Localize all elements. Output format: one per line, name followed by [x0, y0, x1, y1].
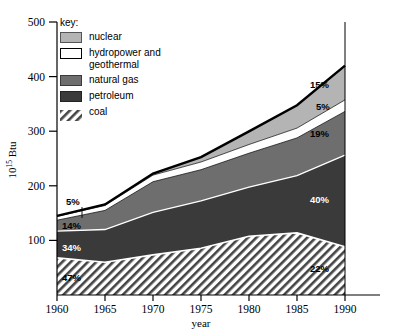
y-tick-label-200: 200 — [28, 180, 46, 192]
x-tick-label-1975: 1975 — [190, 303, 213, 315]
chart-legend: key: nuclear hydropower and geothermal n… — [60, 17, 198, 122]
pct-right-petroleum: 40% — [310, 194, 330, 205]
legend-label-natural-gas: natural gas — [89, 74, 138, 86]
legend-label-nuclear: nuclear — [89, 31, 122, 43]
svg-text:1015 Btu: 1015 Btu — [5, 141, 19, 179]
pct-left-petroleum: 34% — [62, 242, 82, 253]
pct-left-coal: 47% — [62, 272, 82, 283]
x-tick-label-1985: 1985 — [286, 303, 309, 315]
y-tick-label-400: 400 — [28, 71, 46, 83]
x-tick-label-1980: 1980 — [238, 303, 261, 315]
legend-label-coal: coal — [89, 106, 107, 118]
y-tick-label-500: 500 — [28, 16, 46, 28]
petroleum-swatch-icon — [60, 91, 82, 102]
legend-item-hydropower: hydropower and geothermal — [60, 47, 198, 70]
pct-left-hydropower: 5% — [66, 196, 80, 207]
pct-right-nuclear: 15% — [310, 79, 330, 90]
pct-right-natural-gas: 19% — [310, 128, 330, 139]
x-tick-label-1965: 1965 — [94, 303, 117, 315]
y-axis-title-unit: Btu — [6, 141, 18, 160]
natural-gas-swatch-icon — [60, 75, 82, 86]
hydropower-swatch-icon — [60, 48, 82, 59]
legend-item-nuclear: nuclear — [60, 31, 198, 43]
x-tick-label-1990: 1990 — [334, 303, 357, 315]
legend-item-natural-gas: natural gas — [60, 74, 198, 86]
y-tick-label-100: 100 — [28, 234, 46, 246]
legend-title: key: — [60, 17, 198, 28]
legend-label-hydropower: hydropower and geothermal — [89, 47, 198, 70]
legend-label-petroleum: petroleum — [89, 90, 133, 102]
y-axis-title: 1015 Btu — [5, 141, 19, 179]
pct-right-hydropower: 5% — [316, 101, 330, 112]
y-tick-label-300: 300 — [28, 125, 46, 137]
legend-item-petroleum: petroleum — [60, 90, 198, 102]
y-axis-title-base: 10 — [6, 167, 18, 179]
nuclear-swatch-icon — [60, 32, 82, 43]
coal-hatch-icon — [60, 110, 82, 121]
pct-left-natural-gas: 14% — [62, 220, 82, 231]
pct-right-coal: 22% — [310, 263, 330, 274]
coal-swatch-icon — [60, 107, 82, 118]
x-tick-label-1970: 1970 — [142, 303, 165, 315]
x-tick-label-1960: 1960 — [46, 303, 69, 315]
x-axis-title: year — [192, 317, 211, 329]
energy-consumption-area-chart: 500 400 300 200 100 1960 1965 1970 1975 … — [0, 0, 404, 331]
legend-item-coal: coal — [60, 106, 198, 118]
